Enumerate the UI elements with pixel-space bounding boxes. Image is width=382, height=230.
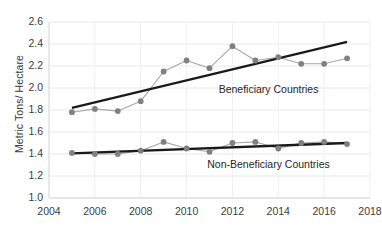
data-point (252, 58, 258, 64)
data-point (321, 61, 327, 67)
data-point (138, 148, 144, 154)
data-point (321, 139, 327, 145)
data-point (207, 149, 213, 155)
data-point (92, 106, 98, 112)
data-point (69, 109, 75, 115)
data-point (138, 98, 144, 104)
series-line-0 (72, 46, 347, 112)
trendline-0 (72, 42, 347, 108)
data-point (298, 61, 304, 67)
data-point (161, 69, 167, 75)
data-point (298, 140, 304, 146)
plot-area (0, 0, 382, 230)
data-point (161, 139, 167, 145)
data-point (252, 139, 258, 145)
data-point (230, 43, 236, 49)
data-point (115, 151, 121, 157)
data-point (115, 108, 121, 114)
series-label-1: Non-Beneficiary Countries (207, 158, 330, 170)
data-point (230, 140, 236, 146)
data-point (344, 55, 350, 61)
data-point (344, 141, 350, 147)
series-label-0: Beneficiary Countries (219, 83, 319, 95)
data-point (92, 151, 98, 157)
data-point (275, 146, 281, 152)
data-point (184, 146, 190, 152)
data-point (184, 58, 190, 64)
data-point (275, 54, 281, 60)
data-point (207, 65, 213, 71)
data-point (69, 150, 75, 156)
chart-container: Metric Tons/ Hectare 1.01.21.41.61.82.02… (0, 0, 382, 230)
